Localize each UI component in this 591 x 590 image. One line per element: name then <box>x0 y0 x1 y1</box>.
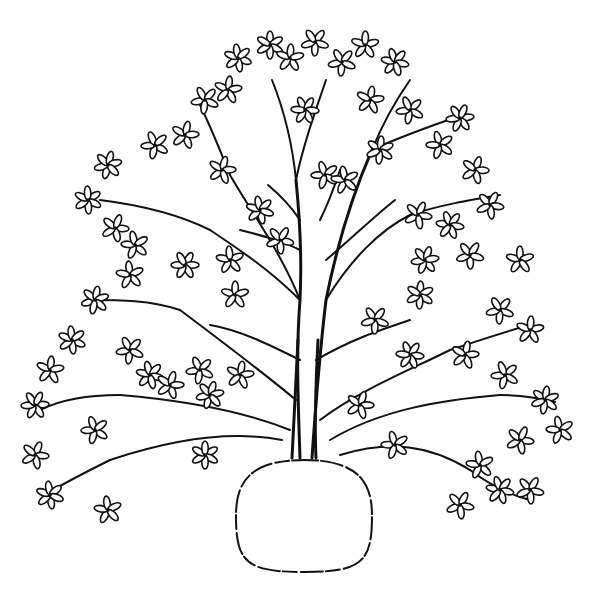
tree-illustration <box>0 0 591 590</box>
